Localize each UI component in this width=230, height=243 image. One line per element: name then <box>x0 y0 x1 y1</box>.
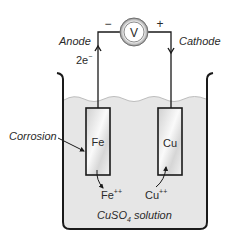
voltmeter-symbol: V <box>130 26 138 40</box>
cu-electrode-label: Cu <box>163 137 177 149</box>
solution-label: CuSO4 solution <box>97 209 172 223</box>
voltmeter: V <box>120 18 148 46</box>
electron-label: 2e− <box>76 53 92 66</box>
fe-electrode-label: Fe <box>92 136 105 148</box>
solution-label-prefix: CuSO <box>97 209 127 221</box>
cu-ion-sup: ++ <box>159 188 167 195</box>
fe-ion-base: Fe <box>101 189 114 201</box>
cu-ion-base: Cu <box>145 189 159 201</box>
cathode-label: Cathode <box>179 35 221 47</box>
corrosion-label: Corrosion <box>9 130 57 142</box>
galvanic-cell-diagram: V − + Anode Cathode 2e− Fe Cu Corrosion … <box>0 0 230 243</box>
fe-ion-sup: ++ <box>114 188 122 195</box>
electron-label-base: 2e <box>76 54 88 66</box>
negative-terminal-sign: − <box>104 17 111 31</box>
solution-label-suffix: solution <box>131 209 172 221</box>
positive-terminal-sign: + <box>156 17 163 31</box>
electron-label-sup: − <box>88 53 92 60</box>
anode-label: Anode <box>58 35 91 47</box>
